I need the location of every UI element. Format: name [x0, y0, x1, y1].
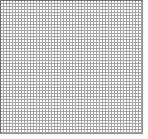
grid-mesh [0, 0, 143, 134]
margin-bottom [0, 134, 148, 139]
grid-border-top [0, 0, 143, 1]
margin-right [143, 0, 148, 139]
grid-canvas [0, 0, 148, 139]
grid-border-left [0, 0, 1, 134]
